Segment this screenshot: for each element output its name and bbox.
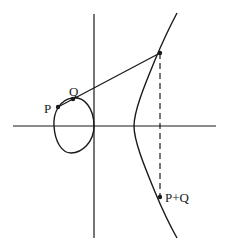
elliptic-curve-diagram: P Q P+Q — [0, 0, 225, 251]
point-p-plus-q — [158, 195, 162, 199]
label-p: P — [44, 101, 51, 116]
label-q: Q — [69, 84, 79, 99]
label-p-plus-q: P+Q — [165, 190, 190, 205]
point-p — [56, 105, 60, 109]
point-third-intersection — [158, 51, 162, 55]
